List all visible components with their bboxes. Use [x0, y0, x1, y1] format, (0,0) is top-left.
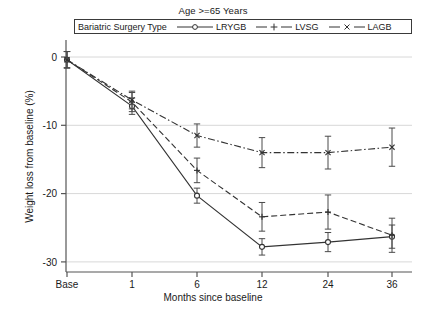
series-lrygb [64, 52, 395, 256]
x-tick-label: Base [56, 279, 79, 290]
data-point-marker-circle [326, 240, 331, 245]
x-tick-label: 12 [256, 279, 268, 290]
x-tick-label: 24 [322, 279, 334, 290]
series-line [67, 60, 392, 236]
y-tick-label: 0 [51, 52, 57, 63]
x-tick-label: 6 [194, 279, 200, 290]
chart-figure: Age >=65 Years Bariatric Surgery Type LR… [0, 0, 426, 325]
data-point-marker-circle [260, 244, 265, 249]
data-point-marker-circle [195, 193, 200, 198]
series-line [67, 60, 392, 247]
series-lvsg [64, 52, 395, 253]
x-tick-label: 36 [386, 279, 398, 290]
x-tick-label: 1 [129, 279, 135, 290]
y-tick-label: -30 [43, 257, 58, 268]
series-lagb [64, 52, 395, 169]
y-axis-label: Weight loss from baseline (%) [24, 67, 35, 247]
x-axis-label: Months since baseline [0, 292, 426, 303]
y-tick-label: -10 [43, 120, 58, 131]
series-line [67, 60, 392, 153]
y-tick-label: -20 [43, 188, 58, 199]
plot-area: 0-10-20-30Base16122436 [0, 0, 426, 325]
